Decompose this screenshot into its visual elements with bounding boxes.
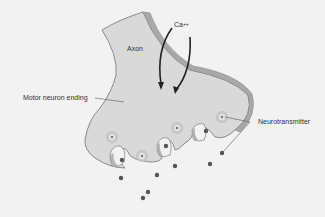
calcium-symbol: Ca bbox=[174, 21, 183, 28]
motor-neuron-ending-label: Motor neuron ending bbox=[23, 94, 88, 101]
neurotransmitter-label: Neurotransmitter bbox=[258, 118, 310, 125]
axon-label: Axon bbox=[127, 45, 143, 52]
calcium-label: Ca++ bbox=[174, 21, 189, 28]
calcium-charge: ++ bbox=[183, 21, 189, 27]
neuron-diagram bbox=[0, 0, 325, 217]
